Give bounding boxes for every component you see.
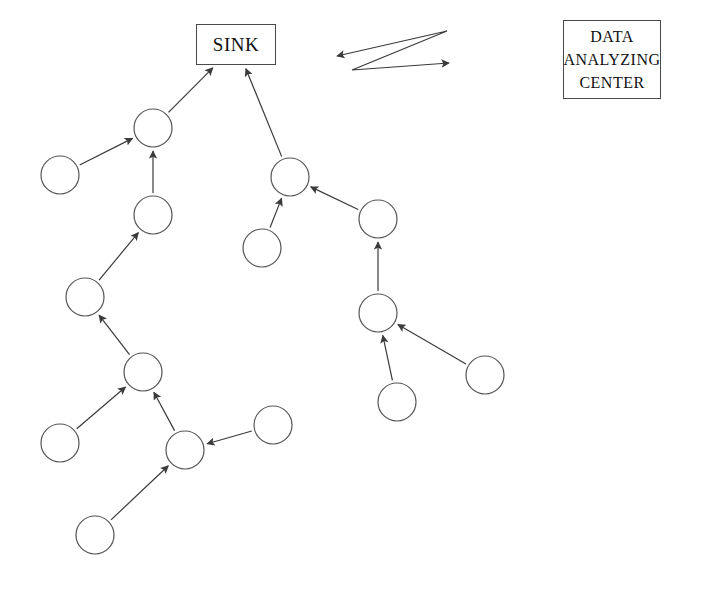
sensor-node xyxy=(271,158,309,196)
routing-edge xyxy=(246,69,282,157)
routing-edge xyxy=(311,187,358,210)
routing-edge xyxy=(270,198,281,227)
dac-line-3: CENTER xyxy=(579,71,644,94)
sink-label: SINK xyxy=(213,35,259,55)
routing-edge xyxy=(398,325,466,364)
sensor-node xyxy=(166,431,204,469)
sensor-node xyxy=(41,156,79,194)
routing-edge xyxy=(99,315,129,354)
dac-line-1: DATA xyxy=(590,25,633,48)
sensor-node xyxy=(378,383,416,421)
routing-edge xyxy=(207,431,252,444)
dac-line-2: ANALYZING xyxy=(563,48,660,71)
sensor-node xyxy=(134,196,172,234)
sensor-node xyxy=(466,356,504,394)
routing-edge xyxy=(383,335,393,380)
wireless-link-arrow xyxy=(337,31,449,70)
sensor-node xyxy=(359,294,397,332)
sink-box: SINK xyxy=(196,24,276,65)
routing-edge xyxy=(111,466,168,520)
sensor-node xyxy=(76,516,114,554)
wireless-link-layer xyxy=(337,31,449,70)
sensor-node xyxy=(66,278,104,316)
routing-edge xyxy=(77,387,126,429)
data-analyzing-center-box: DATA ANALYZING CENTER xyxy=(563,20,661,99)
sensor-node xyxy=(124,353,162,391)
routing-edge xyxy=(80,138,133,165)
node-layer xyxy=(41,109,504,554)
network-diagram: SINK DATA ANALYZING CENTER xyxy=(0,0,702,594)
sensor-node xyxy=(134,109,172,147)
routing-edge xyxy=(169,68,213,113)
routing-edge xyxy=(154,392,175,430)
sensor-node xyxy=(243,229,281,267)
sensor-node xyxy=(254,406,292,444)
routing-edge xyxy=(99,233,138,280)
sensor-node xyxy=(41,424,79,462)
sensor-node xyxy=(359,200,397,238)
